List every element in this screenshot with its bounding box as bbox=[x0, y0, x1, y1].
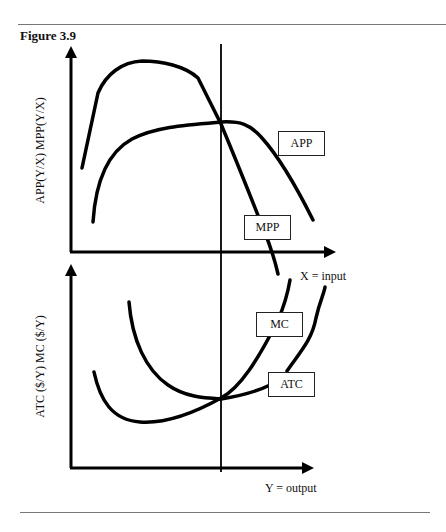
app-label: APP bbox=[278, 131, 325, 156]
mpp-curve bbox=[82, 61, 278, 274]
mc-curve bbox=[94, 280, 290, 422]
mc-label: MC bbox=[256, 312, 303, 337]
top-x-axis-label: X = input bbox=[300, 269, 346, 284]
top-y-axis-label: APP(Y/X) MPP(Y/X) bbox=[33, 91, 48, 211]
bottom-x-axis-label: Y = output bbox=[265, 481, 317, 496]
atc-label: ATC bbox=[268, 372, 315, 397]
mpp-label: MPP bbox=[244, 215, 291, 240]
bottom-axes bbox=[65, 264, 314, 474]
diagram-canvas bbox=[0, 0, 446, 532]
bottom-y-axis-label: ATC ($/Y) MC ($/Y) bbox=[33, 307, 48, 427]
